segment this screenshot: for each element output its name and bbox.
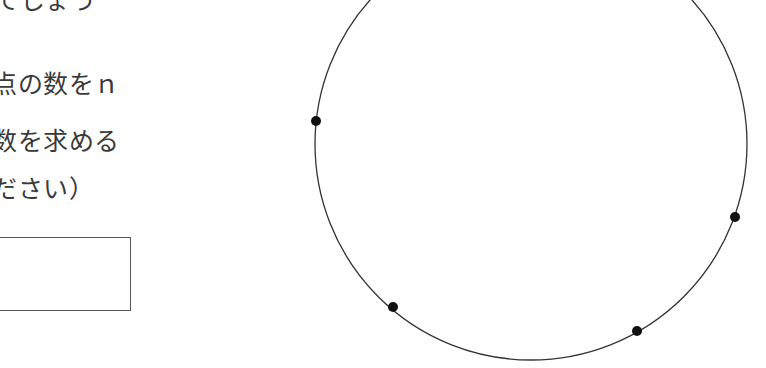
circle-outline [315, 0, 747, 360]
point-2 [730, 212, 740, 222]
point-4 [632, 326, 642, 336]
points-group [311, 116, 740, 336]
circle-figure [0, 0, 766, 368]
point-3 [388, 302, 398, 312]
point-1 [311, 116, 321, 126]
